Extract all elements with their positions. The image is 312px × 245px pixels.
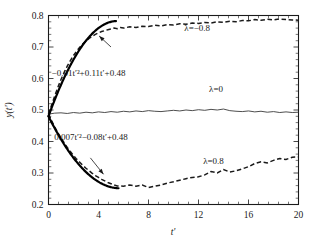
x-tick-label: 16	[244, 210, 254, 220]
x-tick-label: 0	[46, 210, 51, 220]
x-tick-label: 8	[146, 210, 151, 220]
y-tick-label: 0.4	[32, 137, 44, 147]
series-label-lambda=0.8: λ=0.8	[203, 156, 224, 166]
y-tick-label: 0.8	[32, 11, 44, 21]
y-tick-label: 0.5	[32, 105, 44, 115]
y-tick-label: 0.3	[32, 168, 44, 178]
equation-label-upper-fit: −0.01t′²+0.11t′+0.48	[52, 68, 126, 78]
series-label-lambda=0: λ=0	[209, 84, 223, 94]
y-tick-label: 0.7	[32, 42, 44, 52]
series-label-lambda=-0.8: λ=−0.8	[184, 23, 210, 33]
x-tick-label: 20	[294, 210, 304, 220]
x-tick-label: 12	[194, 210, 204, 220]
y-axis-title: y(t')	[4, 102, 15, 118]
chart-figure: −0.01t′²+0.11t′+0.480.007t′²−0.08t′+0.48…	[0, 0, 312, 245]
chart-plot: −0.01t′²+0.11t′+0.480.007t′²−0.08t′+0.48…	[0, 0, 312, 245]
x-tick-label: 4	[96, 210, 101, 220]
y-tick-label: 0.6	[32, 74, 44, 84]
chart-background	[0, 0, 312, 245]
y-tick-label: 0.2	[32, 200, 44, 210]
equation-label-lower-fit: 0.007t′²−0.08t′+0.48	[54, 132, 128, 142]
